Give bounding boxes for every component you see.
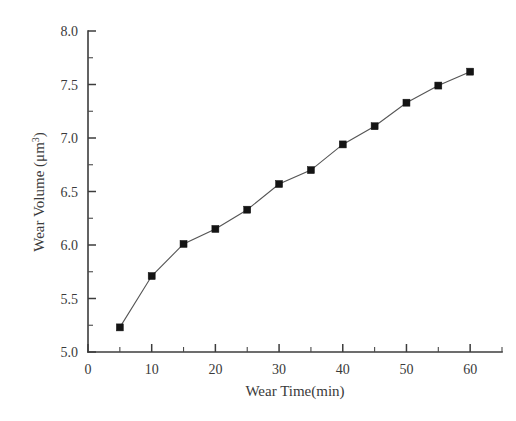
y-tick-label: 5.0	[61, 345, 79, 360]
y-axis-title: Wear Volume (μm3)	[30, 132, 48, 252]
y-tick-label: 7.5	[61, 78, 79, 93]
y-axis-title-group: Wear Volume (μm3)	[30, 132, 48, 252]
data-point-marker	[244, 206, 251, 213]
y-tick-label: 8.0	[61, 24, 79, 39]
x-tick-label: 60	[463, 362, 477, 377]
data-point-marker	[212, 225, 219, 232]
data-point-marker	[180, 240, 187, 247]
data-point-marker	[116, 324, 123, 331]
data-point-marker	[339, 141, 346, 148]
data-point-marker	[403, 99, 410, 106]
data-point-marker	[435, 82, 442, 89]
data-point-marker	[307, 167, 314, 174]
data-point-marker	[371, 123, 378, 130]
chart-figure: 5.05.56.06.57.07.58.0 0102030405060 Wear…	[0, 0, 516, 421]
y-tick-label: 6.0	[61, 238, 79, 253]
x-tick-label: 30	[272, 362, 286, 377]
y-axis-title-tail: )	[31, 132, 48, 137]
data-point-marker	[148, 273, 155, 280]
y-tick-label: 5.5	[61, 292, 79, 307]
x-axis-title: Wear Time(min)	[245, 383, 344, 400]
data-point-marker	[276, 181, 283, 188]
x-tick-label: 20	[208, 362, 222, 377]
data-point-marker	[467, 68, 474, 75]
x-tick-label: 10	[145, 362, 159, 377]
y-tick-label: 7.0	[61, 131, 79, 146]
x-tick-label: 0	[85, 362, 92, 377]
x-tick-label: 40	[336, 362, 350, 377]
y-axis-title-main: Wear Volume (μm	[31, 142, 48, 252]
y-tick-label: 6.5	[61, 185, 79, 200]
wear-volume-line-chart: 5.05.56.06.57.07.58.0 0102030405060 Wear…	[0, 0, 516, 421]
x-tick-label: 50	[399, 362, 413, 377]
